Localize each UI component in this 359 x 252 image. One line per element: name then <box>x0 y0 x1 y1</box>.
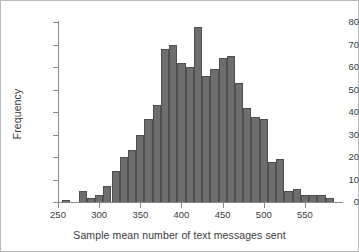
histogram-bar <box>260 119 268 202</box>
histogram-bar <box>227 56 235 202</box>
histogram-bar <box>103 186 111 202</box>
histogram-bar <box>268 162 276 203</box>
x-axis-tick-label: 300 <box>79 210 119 220</box>
x-axis-line <box>58 202 343 203</box>
histogram-bar <box>326 198 334 203</box>
histogram-bar <box>186 67 194 202</box>
y-axis-label: Frequency <box>11 59 23 169</box>
histogram-bar <box>251 117 259 203</box>
histogram-bar <box>235 83 243 202</box>
histogram-bar <box>202 76 210 202</box>
x-axis-tick <box>181 203 182 208</box>
x-axis-tick <box>58 203 59 208</box>
histogram-figure: Frequency Sample mean number of text mes… <box>0 0 359 252</box>
histogram-bar <box>153 105 161 202</box>
x-axis-tick <box>305 203 306 208</box>
x-axis-tick-label: 250 <box>38 210 78 220</box>
histogram-bar <box>169 45 177 203</box>
histogram-bar <box>194 27 202 203</box>
histogram-bar <box>301 195 309 202</box>
x-axis-tick-label: 450 <box>203 210 243 220</box>
x-axis-tick-label: 400 <box>161 210 201 220</box>
histogram-bar <box>144 119 152 202</box>
histogram-bar <box>112 171 120 203</box>
histogram-bar <box>284 191 292 202</box>
histogram-bar <box>210 69 218 202</box>
x-axis-tick <box>140 203 141 208</box>
x-axis-tick-label: 550 <box>285 210 325 220</box>
x-axis-tick-label: 500 <box>244 210 284 220</box>
histogram-bar <box>62 200 70 202</box>
histogram-bar <box>136 135 144 203</box>
x-axis-tick <box>264 203 265 208</box>
x-axis-tick <box>223 203 224 208</box>
histogram-bar <box>293 189 301 203</box>
histogram-bar <box>243 108 251 203</box>
histogram-bar <box>95 195 103 202</box>
histogram-bar <box>128 150 136 202</box>
histogram-bar <box>177 63 185 203</box>
histogram-bar <box>276 159 284 202</box>
histogram-bar <box>79 191 87 202</box>
histogram-bar <box>120 157 128 202</box>
x-axis-tick-label: 350 <box>120 210 160 220</box>
x-axis-tick <box>99 203 100 208</box>
x-axis-label: Sample mean number of text messages sent <box>0 229 359 241</box>
plot-area <box>58 22 342 202</box>
histogram-bar <box>219 58 227 202</box>
histogram-bar <box>161 49 169 202</box>
histogram-bar <box>309 195 317 202</box>
histogram-bar <box>317 195 325 202</box>
histogram-bar <box>87 198 95 203</box>
